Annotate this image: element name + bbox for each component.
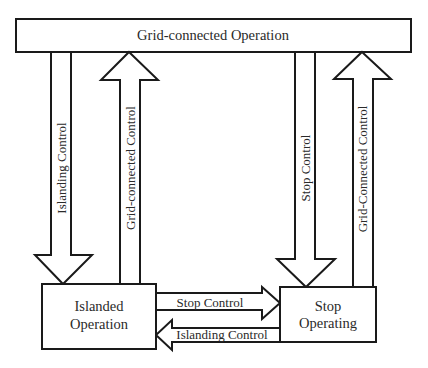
stop-operating-label-line2: Operating [299, 315, 357, 331]
stop-operating-label-line1: Stop [315, 298, 342, 314]
arrow-grid-connected-control-up: Grid-connected Control [101, 52, 158, 284]
islanding-control-label: Islanding Control [54, 122, 69, 214]
stop-control-vertical-label: Stop Control [298, 134, 313, 201]
state-stop-operating: Stop Operating [280, 287, 376, 342]
arrow-stop-control-down: Stop Control [277, 52, 335, 287]
grid-connected-label: Grid-connected Operation [137, 27, 290, 43]
islanded-operation-label-line1: Islanded [74, 298, 124, 314]
islanded-operation-label-line2: Operation [70, 316, 129, 332]
state-grid-connected-operation: Grid-connected Operation [16, 19, 411, 52]
grid-connected-control-label: Grid-connected Control [123, 106, 138, 230]
arrow-grid-connected-control-up-right: Grid-Connected Control [334, 52, 391, 287]
arrow-islanding-control-left: Islanding Control [156, 320, 280, 350]
islanding-control-horizontal-label: Islanding Control [176, 327, 268, 342]
stop-control-horizontal-label: Stop Control [177, 295, 244, 310]
state-islanded-operation: Islanded Operation [42, 284, 156, 349]
arrow-islanding-control-down: Islanding Control [35, 52, 92, 284]
grid-connected-control-right-label: Grid-Connected Control [355, 105, 370, 232]
state-diagram: Grid-connected Operation Islanding Contr… [0, 0, 428, 368]
arrow-stop-control-right: Stop Control [156, 287, 280, 319]
